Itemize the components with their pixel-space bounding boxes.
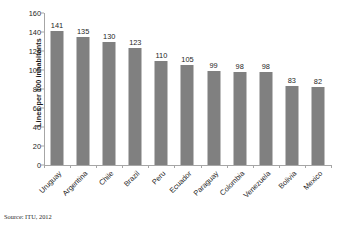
y-tick-label: 120	[29, 47, 41, 56]
bar[interactable]	[285, 86, 298, 165]
bar-series: 141Uruguay135Argentina130Chile123Brazil1…	[44, 13, 331, 165]
bar[interactable]	[311, 87, 324, 165]
x-tick-mark	[227, 165, 228, 168]
y-tick-label: 100	[29, 66, 41, 75]
x-category-label: Ecuador	[168, 169, 194, 195]
bar[interactable]	[181, 65, 194, 165]
x-tick-mark	[122, 165, 123, 168]
y-tick-label: 40	[33, 123, 41, 132]
x-tick-mark	[148, 165, 149, 168]
x-tick-mark	[331, 165, 332, 168]
bar-value-label: 98	[236, 62, 244, 71]
bar-value-label: 110	[155, 51, 167, 60]
bar-group[interactable]: 98Venezuela	[253, 13, 279, 165]
bar-value-label: 98	[262, 62, 270, 71]
x-tick-mark	[201, 165, 202, 168]
bar[interactable]	[103, 42, 116, 166]
bar-value-label: 99	[209, 61, 217, 70]
y-tick-label: 160	[29, 9, 41, 18]
y-tick-label: 20	[33, 142, 41, 151]
x-tick-mark	[305, 165, 306, 168]
bar[interactable]	[51, 31, 64, 165]
bar-group[interactable]: 123Brazil	[122, 13, 148, 165]
bar-value-label: 82	[314, 77, 322, 86]
bar-group[interactable]: 135Argentina	[70, 13, 96, 165]
bar[interactable]	[207, 71, 220, 165]
bar-value-label: 123	[129, 38, 141, 47]
plot-area: 020406080100120140160 141Uruguay135Argen…	[44, 13, 331, 165]
bar[interactable]	[233, 72, 246, 165]
bar-group[interactable]: 141Uruguay	[44, 13, 70, 165]
x-category-label: Argentina	[61, 169, 90, 198]
x-category-label: Peru	[150, 169, 167, 186]
y-gridline	[44, 165, 331, 166]
bar-group[interactable]: 105Ecuador	[174, 13, 200, 165]
bar[interactable]	[155, 61, 168, 166]
bar[interactable]	[77, 37, 90, 165]
y-tick-label: 60	[33, 104, 41, 113]
x-category-label: Paraguay	[191, 169, 220, 198]
bar-group[interactable]: 99Paraguay	[201, 13, 227, 165]
bar-group[interactable]: 83Bolivia	[279, 13, 305, 165]
bar-value-label: 83	[288, 76, 296, 85]
x-tick-mark	[70, 165, 71, 168]
bar-value-label: 130	[103, 32, 115, 41]
bar[interactable]	[259, 72, 272, 165]
x-category-label: Bolivia	[276, 169, 298, 191]
x-tick-mark	[279, 165, 280, 168]
bar-chart-figure: Lines per 100 inhabitants 02040608010012…	[0, 0, 337, 233]
x-category-label: Chile	[97, 169, 115, 187]
y-tick-label: 140	[29, 28, 41, 37]
bar-value-label: 141	[51, 21, 63, 30]
x-tick-mark	[96, 165, 97, 168]
source-note: Source: ITU, 2012	[4, 213, 52, 220]
bar-group[interactable]: 98Colombia	[227, 13, 253, 165]
x-tick-mark	[174, 165, 175, 168]
x-tick-mark	[44, 165, 45, 168]
bar[interactable]	[129, 48, 142, 165]
x-tick-mark	[253, 165, 254, 168]
chart-screenshot: Lines per 100 inhabitants 02040608010012…	[0, 0, 337, 233]
bar-group[interactable]: 82Mexico	[305, 13, 331, 165]
bar-value-label: 105	[181, 55, 193, 64]
bar-group[interactable]: 130Chile	[96, 13, 122, 165]
bar-group[interactable]: 110Peru	[148, 13, 174, 165]
y-tick-label: 80	[33, 85, 41, 94]
x-category-label: Venezuela	[241, 169, 272, 200]
x-category-label: Mexico	[301, 169, 324, 192]
y-tick-label: 0	[37, 161, 41, 170]
bar-value-label: 135	[77, 27, 89, 36]
x-category-label: Brazil	[122, 169, 141, 188]
